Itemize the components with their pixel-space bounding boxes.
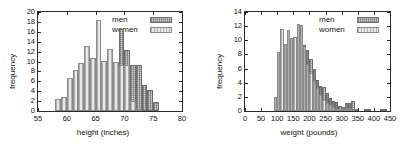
x-tick-label: 70 [120,115,128,123]
y-tick-mark [38,32,41,33]
x-tick-mark [38,108,39,111]
x-tick-label: 250 [319,115,332,123]
y-tick-mark [387,97,390,98]
x-tick-mark [245,12,246,15]
y-tick-label: 4 [238,79,242,87]
histogram-bar-men [153,102,159,111]
x-tick-mark [182,108,183,111]
legend-swatch-women-icon [150,27,172,33]
y-tick-mark [387,83,390,84]
x-tick-mark [277,12,278,15]
x-tick-label: 65 [91,115,99,123]
y-tick-mark [38,62,41,63]
x-tick-label: 300 [335,115,348,123]
legend-label-women: women [319,25,357,34]
y-tick-mark [387,111,390,112]
y-tick-label: 18 [27,18,35,26]
y-tick-mark [179,101,182,102]
x-tick-label: 400 [368,115,381,123]
y-tick-label: 4 [31,87,35,95]
y-tick-mark [38,81,41,82]
y-tick-mark [38,71,41,72]
x-tick-label: 50 [257,115,265,123]
histogram-bar-men [367,109,370,111]
y-tick-label: 16 [27,28,35,36]
y-tick-mark [38,101,41,102]
y-tick-mark [179,81,182,82]
y-tick-mark [179,111,182,112]
y-tick-label: 6 [238,65,242,73]
y-tick-mark [179,62,182,63]
x-tick-label: 0 [243,115,247,123]
x-tick-mark [261,12,262,15]
y-tick-label: 14 [27,38,35,46]
x-tick-mark [390,108,391,111]
legend-label-men: men [112,15,150,24]
y-tick-mark [387,69,390,70]
x-tick-mark [67,12,68,15]
y-tick-mark [179,42,182,43]
y-tick-mark [245,69,248,70]
y-tick-mark [245,40,248,41]
x-axis-title-right: weight (pounds) [206,128,412,137]
legend-swatch-men-icon [357,17,379,23]
y-tick-mark [387,26,390,27]
y-tick-label: 12 [27,48,35,56]
y-tick-label: 8 [31,68,35,76]
chart-panel-height: frequency 02468101214161820556065707580 … [0,0,206,150]
y-tick-mark [38,91,41,92]
y-tick-label: 12 [234,22,242,30]
x-tick-label: 450 [384,115,397,123]
legend-swatch-men-icon [150,17,172,23]
y-tick-label: 2 [238,93,242,101]
x-tick-label: 80 [178,115,186,123]
x-tick-mark [96,12,97,15]
x-tick-mark [390,12,391,15]
y-tick-label: 14 [234,8,242,16]
y-tick-mark [245,111,248,112]
y-tick-mark [179,52,182,53]
histogram-figure: frequency 02468101214161820556065707580 … [0,0,412,150]
y-tick-label: 0 [238,107,242,115]
legend-right: men women [319,15,379,35]
y-tick-mark [179,71,182,72]
x-tick-mark [358,108,359,111]
y-tick-mark [387,40,390,41]
y-tick-label: 2 [31,97,35,105]
x-tick-label: 55 [34,115,42,123]
y-tick-label: 6 [31,78,35,86]
y-tick-mark [179,91,182,92]
x-tick-mark [309,12,310,15]
x-tick-label: 150 [287,115,300,123]
x-tick-mark [374,108,375,111]
y-tick-mark [38,22,41,23]
x-tick-label: 60 [63,115,71,123]
y-tick-mark [245,83,248,84]
chart-panel-weight: frequency 024681012140501001502002503003… [206,0,412,150]
y-tick-label: 10 [27,58,35,66]
y-tick-label: 10 [234,37,242,45]
legend-item-men: men [319,15,379,24]
histogram-bar-women [136,109,142,111]
y-axis-title-left: frequency [8,54,17,89]
x-tick-mark [293,12,294,15]
y-tick-mark [245,97,248,98]
y-tick-label: 8 [238,51,242,59]
x-axis-title-left: height (inches) [0,128,206,137]
y-tick-mark [38,52,41,53]
y-tick-mark [387,54,390,55]
y-tick-mark [179,22,182,23]
histogram-bar-men [384,109,387,111]
x-tick-label: 350 [352,115,365,123]
histogram-bar-women [351,109,354,111]
x-tick-label: 100 [271,115,284,123]
y-tick-mark [245,26,248,27]
legend-item-women: women [319,25,379,34]
x-tick-label: 75 [149,115,157,123]
x-tick-mark [245,108,246,111]
y-tick-mark [38,111,41,112]
y-tick-mark [179,32,182,33]
legend-swatch-women-icon [357,27,379,33]
x-tick-label: 200 [303,115,316,123]
legend-label-men: men [319,15,357,24]
